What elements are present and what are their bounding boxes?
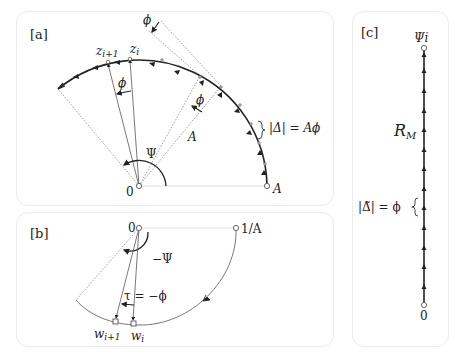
label-origin-b: 0: [128, 221, 136, 235]
label-z-i1: zi+1: [95, 44, 118, 59]
label-tau: τ = −ϕ: [124, 289, 167, 303]
main-arc: [58, 60, 267, 186]
panel-c-tag: [c]: [361, 25, 378, 40]
panel-c-figure: [c] Ψi RM |Δ̃| = ϕ 0: [358, 25, 429, 323]
origin-node-b: [136, 225, 141, 230]
delta-brace: [258, 121, 265, 139]
panel-b-tag: [b]: [30, 226, 48, 241]
figure-canvas: [a]: [0, 0, 459, 358]
label-rm: RM: [393, 121, 417, 141]
label-a-point: A: [272, 182, 282, 196]
inverse-arc-arrow: [203, 295, 210, 301]
label-z-i: zi: [129, 42, 139, 57]
label-phi-right: ϕ: [196, 93, 204, 107]
inverse-arc: [76, 228, 236, 325]
label-phi-mid: ϕ: [118, 76, 126, 90]
label-inv-a: 1/A: [241, 222, 262, 236]
origin-node: [136, 183, 141, 188]
label-psi: Ψ: [146, 147, 157, 161]
label-origin: 0: [126, 185, 134, 199]
label-neg-psi: −Ψ: [152, 252, 173, 266]
label-phi-top: ϕ: [143, 13, 151, 27]
panel-a-figure: [a]: [30, 13, 320, 199]
psi-arc: [124, 160, 166, 186]
delta-tilde-brace: [412, 198, 418, 216]
label-a-radius: A: [187, 130, 197, 144]
label-top: Ψi: [414, 31, 429, 45]
label-w-i1: wi+1: [94, 327, 120, 342]
w-i1-node: [113, 319, 118, 324]
arc-arrows: [61, 60, 267, 175]
top-node: [421, 45, 426, 50]
panel-a-tag: [a]: [30, 27, 48, 42]
a-node: [264, 183, 269, 188]
label-bottom: 0: [420, 309, 428, 323]
label-w-i: wi: [131, 329, 144, 344]
tau-arrow: [122, 304, 134, 305]
label-delta-tilde: |Δ̃| = ϕ: [358, 200, 401, 214]
phi-angle-arrow: [117, 91, 131, 94]
panel-b-figure: [b] 0 1/A −Ψ τ = −ϕ wi+1 wi: [30, 221, 262, 344]
w-i-node: [131, 321, 136, 326]
bottom-node: [421, 302, 426, 307]
inv-a-node: [233, 225, 238, 230]
ray-w-i: [133, 228, 139, 320]
label-delta: |Δ| = Aϕ: [269, 121, 320, 135]
phi-top-arrow: [152, 22, 159, 32]
